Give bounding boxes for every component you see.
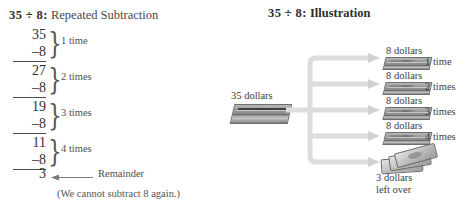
branch-money-label: 8 dollars xyxy=(386,70,422,81)
source-money-label: 35 dollars xyxy=(231,90,273,101)
leftover-bills-icon xyxy=(381,148,437,170)
branch-times-label: 3 times xyxy=(425,106,456,117)
leftover-label-line2: left over xyxy=(376,184,412,196)
illustration-diagram: 35 dollars 8 dollars 1 t xyxy=(0,0,475,208)
branch-money-label: 8 dollars xyxy=(386,45,422,56)
branch-times-label: 4 times xyxy=(425,131,456,142)
branch-connector-icon xyxy=(286,50,394,170)
money-bundle-35-icon xyxy=(230,104,293,124)
branch-money-label: 8 dollars xyxy=(386,95,422,106)
branch-money-label: 8 dollars xyxy=(386,120,422,131)
branch-times-label: 1 time xyxy=(425,56,452,67)
leftover-label: 3 dollars left over xyxy=(376,172,412,196)
branch-times-label: 2 times xyxy=(425,81,456,92)
